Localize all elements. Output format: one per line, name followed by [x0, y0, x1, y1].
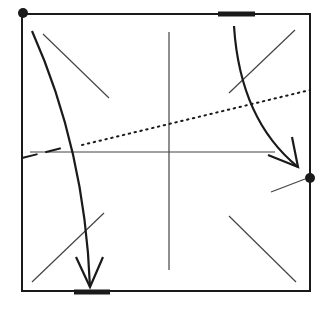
diagram-canvas [0, 0, 333, 311]
right-fold-arrow [234, 26, 298, 167]
diagonal-top-left [43, 34, 109, 98]
diagonal-bottom-left [32, 213, 104, 282]
left-fold-arrow-shaft [32, 31, 90, 287]
crease-lines [30, 30, 305, 282]
bold-edge-marks [74, 14, 255, 292]
dotted-fold-line [82, 90, 310, 145]
fold-diagram [0, 0, 333, 311]
right-dot-short-line [271, 179, 305, 192]
top-left-corner-dot [18, 8, 28, 18]
right-fold-arrow-shaft [234, 26, 298, 167]
diagonal-bottom-right [229, 216, 296, 282]
right-edge-dot [305, 173, 315, 183]
